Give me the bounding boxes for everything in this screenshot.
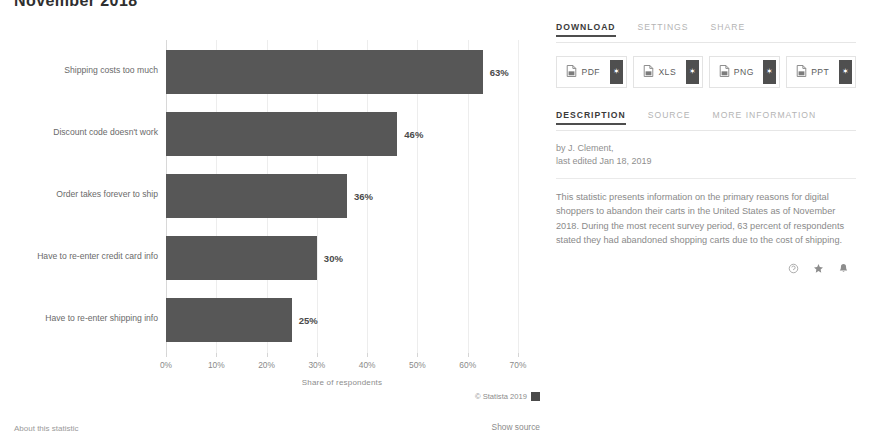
tick-mark	[417, 353, 418, 357]
x-tick-label: 70%	[510, 360, 527, 370]
download-ppt-label: PPT	[811, 67, 829, 77]
star-icon[interactable]	[806, 257, 831, 279]
statista-logo-icon	[531, 392, 540, 401]
chart-category-labels: Shipping costs too muchDiscount code doe…	[6, 40, 158, 352]
copyright: © Statista 2019	[0, 392, 540, 401]
category-label: Have to re-enter shipping info	[8, 314, 158, 323]
download-button-row: PDF✶XLS✶PNG✶PPT✶	[556, 56, 856, 88]
x-tick-label: 10%	[208, 360, 225, 370]
download-pdf-button[interactable]: PDF✶	[556, 56, 627, 88]
bar-value-label: 46%	[404, 129, 423, 140]
ppt-file-icon	[796, 63, 807, 81]
action-icon-row	[556, 257, 856, 279]
xls-file-icon	[643, 63, 654, 81]
bar-row[interactable]: 25%	[166, 294, 318, 346]
chart-x-axis-title: Share of respondents	[166, 378, 518, 387]
tick-mark	[468, 353, 469, 357]
bar[interactable]	[166, 174, 347, 218]
action-tabstrip: DOWNLOADSETTINGSSHARE	[556, 22, 856, 43]
byline-divider	[556, 178, 856, 179]
tick-mark	[518, 353, 519, 357]
category-label: Order takes forever to ship	[8, 190, 158, 199]
byline-edited: last edited Jan 18, 2019	[556, 155, 856, 168]
download-xls-button[interactable]: XLS✶	[633, 56, 704, 88]
x-tick-label: 40%	[359, 360, 376, 370]
bar[interactable]	[166, 236, 317, 280]
category-label: Have to re-enter credit card info	[8, 252, 158, 261]
tab-more-information[interactable]: MORE INFORMATION	[713, 110, 817, 125]
category-label: Shipping costs too much	[8, 66, 158, 75]
chart-plot-area: 63%46%36%30%25%	[166, 40, 518, 352]
download-pdf-options[interactable]: ✶	[610, 60, 623, 84]
bar-row[interactable]: 63%	[166, 46, 509, 98]
page-title: November 2018	[14, 0, 138, 10]
x-tick-label: 20%	[258, 360, 275, 370]
tick-mark	[166, 353, 167, 357]
info-tabstrip: DESCRIPTIONSOURCEMORE INFORMATION	[556, 110, 856, 131]
download-png-main[interactable]: PNG	[710, 57, 763, 87]
bar[interactable]	[166, 298, 292, 342]
download-pdf-label: PDF	[581, 67, 600, 77]
side-panel: DOWNLOADSETTINGSSHARE PDF✶XLS✶PNG✶PPT✶ D…	[556, 22, 856, 279]
copyright-text: © Statista 2019	[475, 392, 527, 401]
tab-source[interactable]: SOURCE	[648, 110, 691, 125]
download-ppt-options[interactable]: ✶	[839, 60, 852, 84]
tick-mark	[216, 353, 217, 357]
category-label: Discount code doesn't work	[8, 128, 158, 137]
chart-x-tick-labels: 0%10%20%30%40%50%60%70%	[166, 360, 526, 374]
download-ppt-button[interactable]: PPT✶	[786, 56, 857, 88]
download-xls-label: XLS	[658, 67, 676, 77]
bar-row[interactable]: 46%	[166, 108, 423, 160]
tab-settings[interactable]: SETTINGS	[638, 22, 689, 37]
png-file-icon	[719, 63, 730, 81]
sparkle-icon: ✶	[766, 68, 773, 76]
bar[interactable]	[166, 112, 397, 156]
bell-icon[interactable]	[831, 257, 856, 279]
sparkle-icon: ✶	[613, 68, 620, 76]
tick-mark	[317, 353, 318, 357]
show-source-link[interactable]: Show source	[0, 422, 540, 432]
bar-chart: Shipping costs too muchDiscount code doe…	[0, 26, 540, 366]
x-tick-label: 0%	[160, 360, 172, 370]
sparkle-icon: ✶	[689, 68, 696, 76]
citation-icon[interactable]	[781, 257, 806, 279]
byline-author: by J. Clement,	[556, 142, 856, 155]
x-tick-label: 50%	[409, 360, 426, 370]
bar-row[interactable]: 36%	[166, 170, 373, 222]
download-png-label: PNG	[734, 67, 754, 77]
bar[interactable]	[166, 50, 483, 94]
bar-value-label: 30%	[324, 253, 343, 264]
bar-value-label: 25%	[299, 315, 318, 326]
bar-value-label: 36%	[354, 191, 373, 202]
tab-description[interactable]: DESCRIPTION	[556, 110, 626, 125]
download-png-options[interactable]: ✶	[763, 60, 776, 84]
tab-download[interactable]: DOWNLOAD	[556, 22, 616, 37]
gridline	[518, 40, 519, 353]
download-xls-main[interactable]: XLS	[634, 57, 687, 87]
download-pdf-main[interactable]: PDF	[557, 57, 610, 87]
tick-mark	[367, 353, 368, 357]
download-png-button[interactable]: PNG✶	[709, 56, 780, 88]
x-tick-label: 60%	[459, 360, 476, 370]
bar-value-label: 63%	[490, 67, 509, 78]
bar-row[interactable]: 30%	[166, 232, 343, 284]
sparkle-icon: ✶	[842, 68, 849, 76]
pdf-file-icon	[566, 63, 577, 81]
download-xls-options[interactable]: ✶	[686, 60, 699, 84]
tick-mark	[267, 353, 268, 357]
byline: by J. Clement, last edited Jan 18, 2019	[556, 142, 856, 168]
x-tick-label: 30%	[308, 360, 325, 370]
description-text: This statistic presents information on t…	[556, 190, 851, 247]
download-ppt-main[interactable]: PPT	[787, 57, 840, 87]
tab-share[interactable]: SHARE	[711, 22, 746, 37]
